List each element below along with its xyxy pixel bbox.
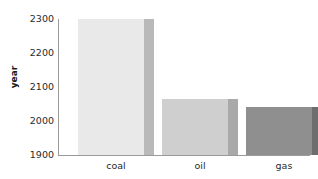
y-axis-tick-labels: 2300 2200 2100 2000 1900	[20, 0, 54, 179]
bar-side-shade	[228, 99, 238, 155]
y-tick-label: 2300	[20, 14, 54, 24]
bar-oil[interactable]	[162, 99, 238, 155]
bar-slot-2	[246, 19, 318, 155]
x-tick-label-gas: gas	[246, 160, 318, 171]
bar-side-shade	[144, 19, 154, 155]
bar-face	[78, 19, 144, 155]
y-tick-label: 1900	[20, 150, 54, 160]
bar-chart: year 2300 2200 2100 2000 1900	[0, 0, 318, 179]
bar-side-shade	[312, 107, 318, 155]
plot-area	[59, 19, 310, 155]
bar-face	[162, 99, 228, 155]
bar-coal[interactable]	[78, 19, 154, 155]
y-tick-label: 2000	[20, 116, 54, 126]
bar-slot-0	[78, 19, 154, 155]
x-tick-label-coal: coal	[78, 160, 154, 171]
bar-slot-1	[162, 19, 238, 155]
bar-face	[246, 107, 312, 155]
y-tick-label: 2200	[20, 48, 54, 58]
x-tick-label-oil: oil	[162, 160, 238, 171]
bar-gas[interactable]	[246, 107, 318, 155]
y-tick-label: 2100	[20, 82, 54, 92]
y-axis-label: year	[9, 57, 19, 97]
x-axis-line	[58, 155, 310, 156]
